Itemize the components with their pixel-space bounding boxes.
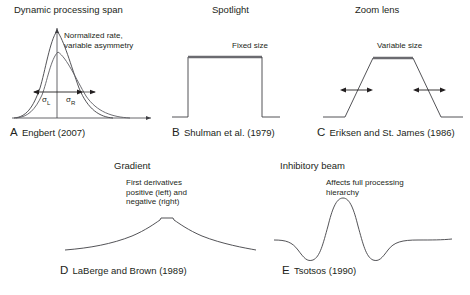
panel-a-letter: A [10,126,18,138]
panel-c-caption: CEriksen and St. James (1986) [317,127,455,138]
panel-c-zoom-lens: Zoom lens Variable size CEriksen and St.… [315,0,470,140]
panel-a-reference: Engbert (2007) [22,127,85,138]
panel-a-caption: AEngbert (2007) [10,127,85,138]
attention-models-figure: Dynamic processing span Normalized rate,… [0,0,470,295]
panel-e-inhibitory-beam: Inhibitory beam Affects full processing … [260,150,470,295]
panel-a-sigma-left-label: σL [42,95,50,106]
panel-b-letter: B [172,126,180,138]
panel-d-letter: D [60,264,69,276]
panel-e-letter: E [282,264,290,276]
panel-c-letter: C [317,126,326,138]
panel-a-dynamic-processing-span: Dynamic processing span Normalized rate,… [0,0,160,140]
panel-c-graphic [315,0,470,140]
panel-b-reference: Shulman et al. (1979) [184,127,275,138]
panel-a-graphic [0,0,160,140]
panel-a-sigma-right-label: σR [66,95,75,106]
panel-b-spotlight: Spotlight Fixed size BShulman et al. (19… [160,0,315,140]
panel-d-caption: DLaBerge and Brown (1989) [60,265,187,276]
panel-d-reference: LaBerge and Brown (1989) [73,265,187,276]
panel-b-caption: BShulman et al. (1979) [172,127,275,138]
panel-b-graphic [160,0,315,140]
panel-c-reference: Eriksen and St. James (1986) [330,127,455,138]
panel-e-reference: Tsotsos (1990) [294,265,356,276]
panel-e-caption: ETsotsos (1990) [282,265,356,276]
panel-d-gradient: Gradient First derivatives positive (lef… [60,150,260,295]
